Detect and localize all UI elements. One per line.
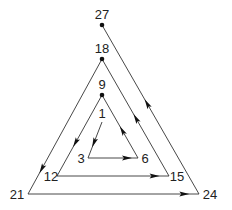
- arrow-head-icon: [143, 98, 152, 109]
- arrow-head-icon: [118, 125, 127, 136]
- arrow-head-icon: [131, 113, 140, 124]
- node-dot-9: [100, 93, 105, 98]
- arrow-head-icon: [90, 137, 98, 148]
- edge-18-to-21: [28, 59, 102, 194]
- triangular-spiral-diagram: 1369121518212427: [0, 0, 232, 210]
- node-label-21: 21: [10, 187, 24, 202]
- node-label-12: 12: [44, 169, 58, 184]
- node-dot-18: [100, 57, 105, 62]
- node-label-6: 6: [141, 151, 148, 166]
- node-label-24: 24: [203, 187, 217, 202]
- node-label-3: 3: [77, 151, 84, 166]
- arrows-group: [37, 98, 189, 196]
- node-label-9: 9: [98, 77, 105, 92]
- node-dot-27: [100, 23, 105, 28]
- node-label-1: 1: [98, 106, 105, 121]
- arrow-head-icon: [71, 137, 80, 148]
- node-label-18: 18: [95, 41, 109, 56]
- labels-group: 1369121518212427: [10, 7, 217, 202]
- node-label-15: 15: [170, 169, 184, 184]
- node-label-27: 27: [95, 7, 109, 22]
- edge-24-to-27: [102, 25, 199, 194]
